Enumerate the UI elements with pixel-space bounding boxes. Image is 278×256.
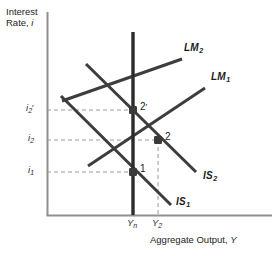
tick-sub: 2 (30, 137, 34, 144)
tick-prime: ′ (32, 103, 34, 113)
curve-label-IS1: IS1 (176, 196, 190, 207)
x-tick-label-Yn: Yn (127, 218, 137, 229)
diagram-canvas (0, 0, 278, 256)
curve-label-IS2: IS2 (203, 170, 217, 181)
curve-label-LM1: LM1 (211, 71, 230, 82)
y-axis-title-symbol: i (31, 17, 33, 28)
curve-sub: 1 (226, 76, 230, 83)
curve-base: LM (211, 71, 226, 82)
y-tick-label-i1: i1 (28, 165, 34, 176)
y-axis-title-line1: Interest (6, 6, 38, 17)
curve-sub: 1 (186, 201, 190, 208)
point-marker-1 (129, 168, 137, 176)
x-axis-title: Aggregate Output, Y (150, 235, 237, 246)
is-curves (61, 64, 196, 205)
curve-base: IS (176, 196, 186, 207)
is-lm-figure: Interest Rate, i Aggregate Output, Y i2′… (0, 0, 278, 256)
point-label-1: 1 (140, 163, 146, 174)
curve-IS1 (61, 96, 171, 205)
tick-sub: n (133, 222, 137, 229)
y-axis-title-line2: Rate, (6, 17, 31, 28)
x-axis-title-symbol: Y (230, 234, 236, 245)
y-axis-title: Interest Rate, i (6, 7, 38, 28)
point-label-2: 2 (165, 131, 171, 142)
curve-LM2 (62, 59, 182, 101)
tick-sub: 2 (158, 222, 162, 229)
point-marker-2 (154, 136, 162, 144)
curve-sub: 2 (213, 175, 217, 182)
curve-LM1 (88, 88, 205, 166)
x-tick-label-Y2: Y2 (152, 218, 162, 229)
tick-sub: 1 (30, 169, 34, 176)
y-tick-label-i2prime: i2′ (26, 103, 34, 114)
point-number: 1 (140, 163, 146, 174)
point-number: 2 (165, 131, 171, 142)
y-tick-label-i2: i2 (28, 133, 34, 144)
curve-base: LM (184, 42, 199, 53)
curve-base: IS (203, 170, 213, 181)
point-prime: ′ (146, 102, 148, 112)
curve-sub: 2 (199, 47, 203, 54)
point-marker-2prime (129, 106, 137, 114)
x-axis-title-text: Aggregate Output, (150, 234, 230, 245)
tick-sub: 2 (28, 107, 32, 114)
curve-label-LM2: LM2 (184, 42, 203, 53)
point-label-2prime: 2′ (140, 101, 147, 112)
